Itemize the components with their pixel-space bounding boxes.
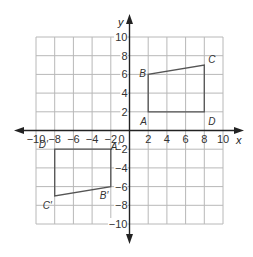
vertex-label: C xyxy=(208,54,216,65)
y-tick-label: −6 xyxy=(115,181,128,193)
vertex-label: A′ xyxy=(110,141,121,152)
x-tick-label: −8 xyxy=(48,133,61,145)
y-axis-label: y xyxy=(117,16,125,28)
y-tick-label: 4 xyxy=(121,87,127,99)
y-tick-label: 6 xyxy=(121,68,127,80)
x-tick-label: 2 xyxy=(145,133,151,145)
x-tick-label: −6 xyxy=(67,133,80,145)
vertex-label: D′ xyxy=(39,139,49,150)
x-tick-label: 4 xyxy=(164,133,170,145)
vertex-label: B xyxy=(139,68,146,79)
x-axis-label: x xyxy=(235,134,242,146)
x-tick-label: −4 xyxy=(86,133,99,145)
vertex-label: C′ xyxy=(43,200,53,211)
y-tick-label: 2 xyxy=(121,106,127,118)
y-tick-label: 10 xyxy=(115,31,127,43)
x-axis-left-arrow-icon xyxy=(14,127,24,134)
vertex-label: A xyxy=(139,116,147,127)
shape-abcd xyxy=(148,65,204,112)
coordinate-grid: −10−8−6−4−20246810108642−2−4−6−8−10 ABCD… xyxy=(0,0,253,257)
y-tick-label: −4 xyxy=(115,162,128,174)
y-tick-label: −10 xyxy=(109,218,128,230)
y-tick-label: −8 xyxy=(115,199,128,211)
x-tick-label: 6 xyxy=(183,133,189,145)
vertex-label: D xyxy=(208,116,215,127)
x-tick-label: 10 xyxy=(217,133,229,145)
y-tick-label: 8 xyxy=(121,50,127,62)
y-axis-up-arrow-icon xyxy=(126,14,133,24)
y-axis-down-arrow-icon xyxy=(126,234,133,244)
x-tick-label: 8 xyxy=(201,133,207,145)
vertex-label: B′ xyxy=(100,190,110,201)
x-axis-right-arrow-icon xyxy=(234,127,244,134)
